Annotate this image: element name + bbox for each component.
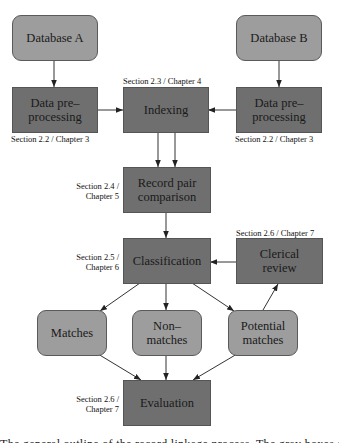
node-label: Matches	[51, 326, 93, 340]
node-potential-matches: Potential matches	[228, 310, 298, 356]
node-label: Classification	[133, 254, 202, 268]
node-preprocess-a: Data pre– processing	[12, 87, 98, 133]
node-indexing: Indexing	[123, 87, 209, 133]
node-label: Data pre– processing	[28, 96, 81, 124]
node-evaluation: Evaluation	[123, 380, 211, 426]
node-record-pair-comparison: Record pair comparison	[123, 167, 211, 213]
annotation-clerical-review: Section 2.6 / Chapter 7	[236, 228, 314, 238]
node-label: Database B	[250, 31, 307, 45]
node-label: Database A	[26, 31, 83, 45]
node-classification: Classification	[123, 238, 211, 284]
annotation-evaluation: Section 2.6 / Chapter 7	[60, 394, 119, 414]
node-label: Potential matches	[241, 319, 285, 347]
caption-text: The general outline of the record linkag…	[0, 437, 339, 443]
edge-potential-to-clerical	[263, 284, 278, 310]
edge-classification-to-matches	[100, 283, 140, 311]
annotation-preprocess-a: Section 2.2 / Chapter 3	[11, 134, 89, 144]
diagram-edges	[0, 0, 339, 443]
node-label: Evaluation	[140, 396, 194, 410]
annotation-classification: Section 2.5 / Chapter 6	[60, 252, 119, 272]
node-matches: Matches	[37, 310, 107, 356]
record-linkage-diagram: Database A Database B Section 2.3 / Chap…	[0, 0, 339, 443]
annotation-indexing: Section 2.3 / Chapter 4	[123, 76, 201, 86]
node-label: Record pair comparison	[138, 176, 197, 204]
node-label: Non– matches	[147, 319, 188, 347]
edge-matches-to-evaluation	[98, 354, 141, 380]
annotation-preprocess-b: Section 2.2 / Chapter 3	[235, 134, 313, 144]
node-preprocess-b: Data pre– processing	[236, 87, 322, 133]
node-clerical-review: Clerical review	[236, 238, 323, 284]
node-label: Indexing	[144, 103, 188, 117]
node-database-b: Database B	[236, 15, 322, 61]
node-label: Data pre– processing	[252, 96, 305, 124]
edge-classification-to-potential	[192, 283, 234, 311]
figure-caption: The general outline of the record linkag…	[0, 437, 339, 443]
node-non-matches: Non– matches	[132, 310, 202, 356]
node-label: Clerical review	[260, 247, 300, 275]
node-database-a: Database A	[12, 15, 98, 61]
annotation-comparison: Section 2.4 / Chapter 5	[60, 181, 119, 201]
edge-potential-to-evaluation	[193, 354, 237, 380]
